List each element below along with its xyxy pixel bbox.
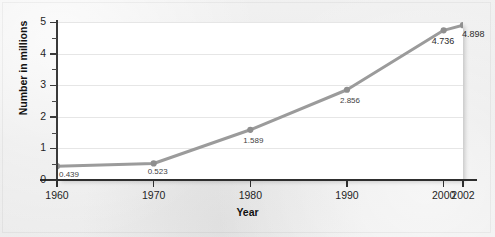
y-axis-tick-label: 1 bbox=[26, 141, 46, 153]
y-axis-tick-label: 3 bbox=[26, 78, 46, 90]
y-axis-tick bbox=[50, 53, 57, 55]
y-axis-tick bbox=[50, 22, 57, 24]
y-axis-minor-tick bbox=[52, 69, 57, 70]
y-axis-minor-tick bbox=[52, 133, 57, 134]
x-axis-tick bbox=[56, 181, 58, 187]
series-line bbox=[57, 25, 463, 166]
x-axis-tick-label: 1970 bbox=[134, 189, 174, 201]
y-axis-minor-tick bbox=[52, 101, 57, 102]
data-point-label: 1.589 bbox=[243, 136, 263, 145]
x-axis-tick-label: 1980 bbox=[230, 189, 270, 201]
y-axis-tick bbox=[50, 116, 57, 118]
data-point-marker bbox=[151, 160, 157, 166]
y-axis-tick bbox=[50, 148, 57, 150]
y-axis-tick bbox=[50, 85, 57, 87]
x-axis-tick bbox=[443, 181, 445, 187]
y-axis-tick-label: 5 bbox=[26, 15, 46, 27]
data-point-label: 4.898 bbox=[462, 29, 485, 39]
y-axis-minor-tick bbox=[52, 38, 57, 39]
x-axis-line bbox=[40, 179, 477, 181]
y-axis-tick-label: 4 bbox=[26, 47, 46, 59]
y-axis-minor-tick bbox=[52, 164, 57, 165]
series-line-chart bbox=[57, 22, 463, 180]
chart-figure: 012345 196019701980199020002002 0.4390.5… bbox=[0, 0, 495, 237]
x-axis-tick bbox=[153, 181, 155, 187]
data-point-marker bbox=[344, 87, 350, 93]
y-axis-tick-label: 2 bbox=[26, 110, 46, 122]
data-point-label: 0.439 bbox=[59, 170, 79, 179]
x-axis-tick-label: 1990 bbox=[327, 189, 367, 201]
data-point-marker bbox=[247, 127, 253, 133]
data-point-label: 2.856 bbox=[340, 96, 360, 105]
y-axis-tick-label: 0 bbox=[26, 173, 46, 185]
data-point-label: 0.523 bbox=[148, 167, 168, 176]
x-axis-title: Year bbox=[0, 206, 495, 218]
y-axis-title: Number in millions bbox=[17, 8, 29, 128]
data-point-label: 4.736 bbox=[432, 36, 455, 46]
data-point-marker bbox=[441, 27, 447, 33]
x-axis-tick bbox=[346, 181, 348, 187]
x-axis-tick-label: 1960 bbox=[37, 189, 77, 201]
x-axis-tick bbox=[250, 181, 252, 187]
plot-inner bbox=[57, 22, 463, 180]
x-axis-tick-label: 2002 bbox=[443, 189, 483, 201]
x-axis-tick bbox=[462, 181, 464, 187]
plot-area bbox=[57, 22, 463, 180]
